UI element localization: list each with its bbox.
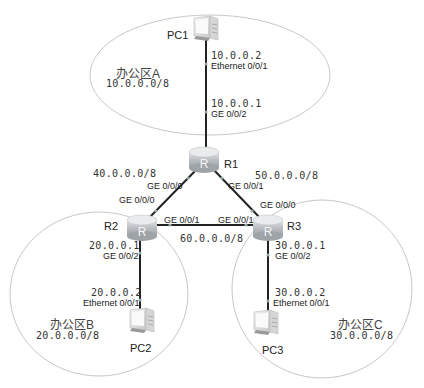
r3-ge002-name: GE 0/0/2 bbox=[275, 251, 311, 261]
r2-ge000-name: GE 0/0/0 bbox=[119, 195, 155, 205]
pc2-label: PC2 bbox=[130, 342, 151, 354]
pc2-eth-name: Ethernet 0/0/1 bbox=[83, 298, 140, 308]
r1-ge002-ip: 10.0.0.1 bbox=[211, 98, 262, 109]
r2-label: R2 bbox=[104, 220, 118, 232]
router-r1-icon[interactable]: R bbox=[189, 147, 219, 173]
link-r1-r2-network: 40.0.0.0/8 bbox=[93, 168, 156, 179]
router-r3-icon[interactable]: R bbox=[253, 215, 283, 241]
link-r2-r3-network: 60.0.0.0/8 bbox=[180, 233, 243, 244]
pc1-eth-ip: 10.0.0.2 bbox=[211, 50, 262, 61]
svg-text:R: R bbox=[200, 157, 209, 171]
pc3-eth-ip: 30.0.0.2 bbox=[275, 287, 326, 298]
zone-b-network: 20.0.0.0/8 bbox=[36, 330, 99, 341]
r1-ge000-name: GE 0/0/0 bbox=[147, 181, 183, 191]
r1-label: R1 bbox=[224, 158, 238, 170]
r1-ge002-name: GE 0/0/2 bbox=[211, 109, 247, 119]
r2-ge002-ip: 20.0.0.1 bbox=[89, 240, 140, 251]
pc3-label: PC3 bbox=[262, 344, 283, 356]
r3-ge002-ip: 30.0.0.1 bbox=[275, 240, 326, 251]
pc2-eth-ip: 20.0.0.2 bbox=[91, 287, 142, 298]
svg-text:R: R bbox=[264, 225, 273, 239]
pc1-icon[interactable] bbox=[194, 16, 218, 41]
router-r2-icon[interactable]: R bbox=[127, 215, 157, 241]
r3-ge001-name: GE 0/0/1 bbox=[218, 215, 254, 225]
r3-ge000-name: GE 0/0/0 bbox=[260, 200, 296, 210]
link-r1-r3-network: 50.0.0.0/8 bbox=[255, 170, 318, 181]
zone-a-network: 10.0.0.0/8 bbox=[106, 78, 169, 89]
r2-ge001-name: GE 0/0/1 bbox=[164, 215, 200, 225]
r3-label: R3 bbox=[287, 220, 301, 232]
pc2-icon[interactable] bbox=[130, 308, 154, 333]
pc3-eth-name: Ethernet 0/0/1 bbox=[273, 298, 330, 308]
pc1-eth-name: Ethernet 0/0/1 bbox=[211, 61, 268, 71]
zone-c-network: 30.0.0.0/8 bbox=[330, 330, 393, 341]
svg-text:R: R bbox=[138, 225, 147, 239]
r1-ge001-name: GE 0/0/1 bbox=[228, 181, 264, 191]
pc1-label: PC1 bbox=[167, 29, 188, 41]
pc3-icon[interactable] bbox=[254, 310, 278, 335]
r2-ge002-name: GE 0/0/2 bbox=[103, 251, 139, 261]
